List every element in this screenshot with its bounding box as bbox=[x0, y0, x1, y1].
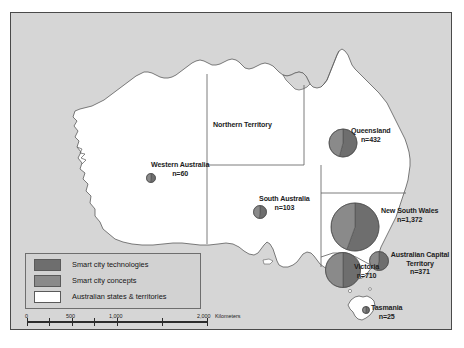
map-label-south-australia: South Australia n=103 bbox=[259, 195, 310, 212]
legend-label-concepts: Smart city concepts bbox=[72, 276, 136, 285]
scale-unit-label: Kilometers bbox=[215, 313, 240, 319]
scale-label-0: 0 bbox=[25, 313, 28, 319]
scale-minor-tick-2 bbox=[94, 318, 95, 326]
legend-swatch-states bbox=[34, 291, 61, 303]
legend-label-states: Australian states & territories bbox=[72, 292, 166, 301]
scale-label-2000: 2,000 bbox=[197, 313, 211, 319]
legend-label-technologies: Smart city technologies bbox=[72, 260, 148, 269]
legend-swatch-technologies bbox=[34, 259, 61, 271]
map-label-tasmania: Tasmania n=25 bbox=[371, 304, 402, 321]
flinders-island bbox=[369, 288, 372, 291]
map-label-australian-capital-territory: Australian Capital Territory n=371 bbox=[389, 251, 451, 277]
map-panel: Northern Territory Western Australia n=6… bbox=[10, 12, 452, 330]
legend-box: Smart city technologies Smart city conce… bbox=[25, 253, 201, 309]
map-label-western-australia: Western Australia n=60 bbox=[151, 161, 209, 178]
scale-tick-0 bbox=[27, 318, 28, 326]
map-canvas: Northern Territory Western Australia n=6… bbox=[11, 13, 451, 329]
legend-swatch-concepts bbox=[34, 275, 61, 287]
scale-tick-1000 bbox=[117, 318, 118, 326]
scale-tick-2000 bbox=[207, 318, 208, 326]
map-label-queensland: Queensland n=432 bbox=[351, 127, 391, 144]
scale-bar: 0 500 1,000 2,000 Kilometers bbox=[25, 313, 221, 329]
figure-root: Northern Territory Western Australia n=6… bbox=[0, 0, 464, 348]
scale-label-1000: 1,000 bbox=[109, 313, 123, 319]
map-label-northern-territory: Northern Territory bbox=[213, 121, 272, 130]
map-label-victoria: Victoria n=710 bbox=[354, 263, 379, 280]
scale-tick-500 bbox=[72, 318, 73, 326]
scale-label-500: 500 bbox=[66, 313, 75, 319]
scale-minor-tick-3 bbox=[162, 318, 163, 326]
scale-minor-tick-1 bbox=[49, 318, 50, 326]
king-island bbox=[348, 289, 351, 292]
map-label-new-south-wales: New South Wales n=1,372 bbox=[381, 207, 438, 224]
